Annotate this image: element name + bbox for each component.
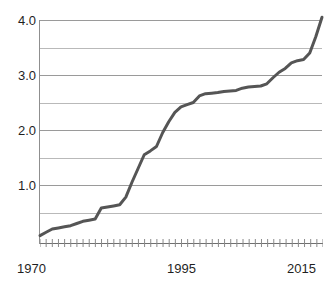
y-tick-label-3: 3.0 (2, 69, 36, 82)
y-tick-label-2: 2.0 (2, 124, 36, 137)
x-axis-labels: 1970 1995 2015 (0, 262, 331, 282)
series-line (40, 20, 322, 242)
plot-area (40, 20, 322, 242)
x-tick-label-1970: 1970 (17, 262, 46, 276)
x-tick-label-2015: 2015 (287, 262, 316, 276)
x-axis-minor-ticks (40, 237, 323, 249)
x-tick-label-1995: 1995 (167, 262, 196, 276)
chart-figure: 4.0 3.0 2.0 1.0 1970 1995 2015 (0, 0, 331, 291)
y-tick-label-1: 1.0 (2, 179, 36, 192)
y-tick-label-4: 4.0 (2, 14, 36, 27)
y-axis-labels: 4.0 3.0 2.0 1.0 (0, 0, 36, 291)
